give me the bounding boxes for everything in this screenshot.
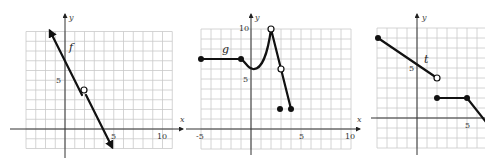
filled-point-g-1 xyxy=(198,56,204,62)
tick-x-5-f: 5 xyxy=(111,132,116,141)
x-axis-label-g: x xyxy=(357,115,362,124)
open-point-g-2 xyxy=(278,66,284,72)
function-label-f: f xyxy=(68,41,75,54)
tick-x-10-f: 10 xyxy=(157,132,167,141)
graph-t: y 5 5 t xyxy=(371,13,485,155)
filled-point-g-2 xyxy=(238,56,244,62)
graph-f: x y 5 10 5 f xyxy=(10,13,185,158)
filled-point-g-3 xyxy=(277,106,283,112)
open-point-f xyxy=(81,87,87,93)
grid-t xyxy=(377,28,485,148)
tick-x-5-g: 5 xyxy=(299,132,304,141)
graph-g: x y -5 5 10 5 10 g xyxy=(186,13,362,155)
open-point-g-1 xyxy=(268,26,274,32)
curve-f xyxy=(50,31,82,95)
grid-f xyxy=(26,32,172,149)
y-axis-label-t: y xyxy=(421,13,427,22)
tick-y-10-g: 10 xyxy=(239,24,249,33)
open-point-t xyxy=(434,75,440,81)
filled-point-g-4 xyxy=(288,106,294,112)
filled-point-t-3 xyxy=(464,95,470,101)
tick-x-5-t: 5 xyxy=(465,121,470,130)
function-label-g: g xyxy=(222,43,229,56)
tick-y-5-f: 5 xyxy=(56,76,61,85)
curve-f-lower xyxy=(86,95,112,147)
y-axis-label-f: y xyxy=(68,13,74,22)
tick-x-10-g: 10 xyxy=(345,132,355,141)
tick-x-m5-g: -5 xyxy=(196,132,204,141)
filled-point-t-2 xyxy=(434,95,440,101)
filled-point-t-1 xyxy=(375,35,381,41)
graphs-figure: x y 5 10 5 f x y -5 5 10 5 10 g y 5 xyxy=(0,0,485,165)
tick-y-5-t: 5 xyxy=(409,64,414,73)
x-axis-label-f: x xyxy=(180,115,185,124)
function-label-t: t xyxy=(424,53,429,66)
y-axis-label-g: y xyxy=(254,13,260,22)
tick-y-5-g: 5 xyxy=(243,75,248,84)
